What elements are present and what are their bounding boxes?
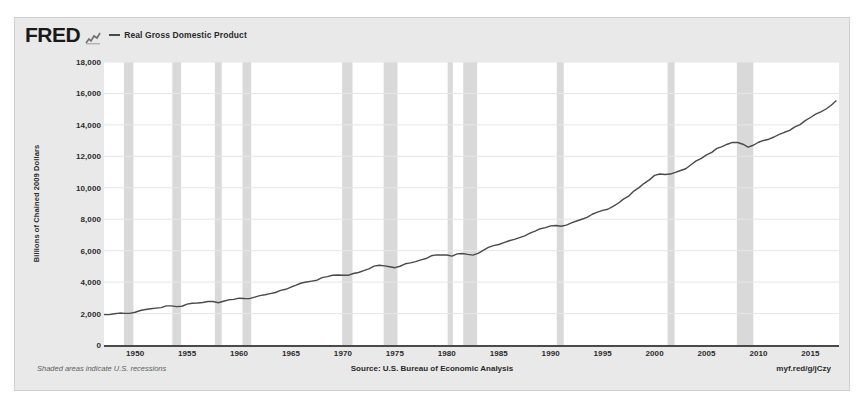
x-tick-label: 1960 bbox=[230, 349, 248, 358]
y-tick-label: 12,000 bbox=[76, 152, 101, 161]
y-tick-label: 4,000 bbox=[80, 278, 101, 287]
x-tick-label: 1995 bbox=[594, 349, 612, 358]
x-tick-label: 1985 bbox=[490, 349, 508, 358]
chart-svg bbox=[104, 62, 839, 345]
x-axis-line bbox=[104, 345, 839, 347]
permalink-url[interactable]: myf.red/g/jCzy bbox=[776, 364, 831, 373]
recession-band bbox=[384, 62, 398, 345]
y-axis-title: Billions of Chained 2009 Dollars bbox=[31, 62, 43, 345]
recession-band bbox=[448, 62, 453, 345]
fred-graph-card: FRED Real Gross Domestic Product Billion… bbox=[14, 17, 850, 391]
x-tick-label: 1970 bbox=[334, 349, 352, 358]
legend-series-label: Real Gross Domestic Product bbox=[124, 30, 247, 40]
plot-shell bbox=[104, 62, 839, 345]
recession-band bbox=[557, 62, 564, 345]
x-tick-label: 1975 bbox=[386, 349, 404, 358]
fred-logo[interactable]: FRED bbox=[25, 24, 80, 45]
recession-band bbox=[242, 62, 251, 345]
y-tick-label: 6,000 bbox=[80, 246, 101, 255]
y-tick-label: 8,000 bbox=[80, 215, 101, 224]
y-tick-label: 16,000 bbox=[76, 89, 101, 98]
x-tick-label: 1990 bbox=[542, 349, 560, 358]
recession-band bbox=[737, 62, 753, 345]
legend-color-swatch bbox=[109, 34, 120, 36]
y-tick-label: 18,000 bbox=[76, 58, 101, 67]
recession-band bbox=[124, 62, 133, 345]
source-label: Source: U.S. Bureau of Economic Analysis bbox=[15, 364, 849, 373]
recession-band bbox=[172, 62, 181, 345]
fred-chart-screenshot: FRED Real Gross Domestic Product Billion… bbox=[0, 0, 864, 409]
mini-line-chart-icon bbox=[85, 31, 101, 44]
chart-header: FRED Real Gross Domestic Product bbox=[25, 24, 247, 46]
plot-area bbox=[104, 62, 839, 345]
recession-band bbox=[342, 62, 352, 345]
x-tick-label: 1980 bbox=[438, 349, 456, 358]
x-tick-label: 2010 bbox=[749, 349, 767, 358]
recession-band bbox=[668, 62, 675, 345]
recession-band bbox=[463, 62, 477, 345]
y-axis-title-text: Billions of Chained 2009 Dollars bbox=[33, 145, 42, 262]
y-tick-label: 2,000 bbox=[80, 309, 101, 318]
x-tick-label: 2015 bbox=[801, 349, 819, 358]
y-tick-label: 10,000 bbox=[76, 183, 101, 192]
y-tick-label: 0 bbox=[96, 341, 101, 350]
x-tick-label: 1955 bbox=[178, 349, 196, 358]
x-tick-label: 1965 bbox=[282, 349, 300, 358]
y-tick-label: 14,000 bbox=[76, 120, 101, 129]
chart-footer: Shaded areas indicate U.S. recessions So… bbox=[15, 364, 849, 376]
x-tick-label: 1950 bbox=[126, 349, 144, 358]
x-tick-label: 2000 bbox=[645, 349, 663, 358]
chart-legend: Real Gross Domestic Product bbox=[109, 30, 247, 40]
y-axis-ticks: 18,00016,00014,00012,00010,0008,0006,000… bbox=[45, 62, 101, 345]
x-axis-ticks: 1950195519601965197019751980198519901995… bbox=[104, 349, 839, 363]
x-tick-label: 2005 bbox=[697, 349, 715, 358]
